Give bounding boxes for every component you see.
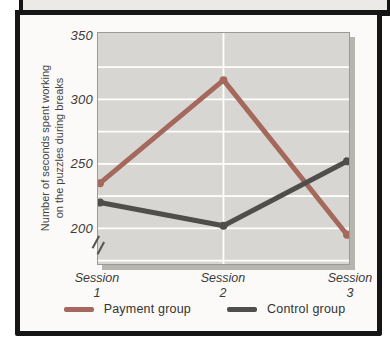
- control-group-label: Control group: [267, 302, 345, 316]
- y-tick-300: 300: [51, 92, 93, 107]
- x-tick-word: Session: [188, 271, 258, 286]
- plot-area: [97, 32, 350, 265]
- payment-group-label: Payment group: [104, 302, 191, 316]
- x-tick-number: 2: [188, 286, 258, 301]
- x-tick-number: 1: [62, 286, 132, 301]
- y-tick-200: 200: [51, 221, 93, 236]
- x-tick-session-2: Session 2: [188, 271, 258, 301]
- x-tick-word: Session: [315, 271, 385, 286]
- x-tick-word: Session: [62, 271, 132, 286]
- legend: Payment group Control group: [20, 302, 377, 316]
- figure-frame: Number of seconds spent working on the p…: [15, 10, 382, 336]
- x-tick-session-1: Session 1: [62, 271, 132, 301]
- y-tick-250: 250: [51, 156, 93, 171]
- x-tick-number: 3: [315, 286, 385, 301]
- payment-group-swatch: [64, 307, 94, 312]
- x-tick-session-3: Session 3: [315, 271, 385, 301]
- line-chart: [98, 33, 349, 264]
- control-group-swatch: [227, 307, 257, 312]
- figure-scan: Number of seconds spent working on the p…: [0, 0, 390, 349]
- y-tick-350: 350: [51, 28, 93, 43]
